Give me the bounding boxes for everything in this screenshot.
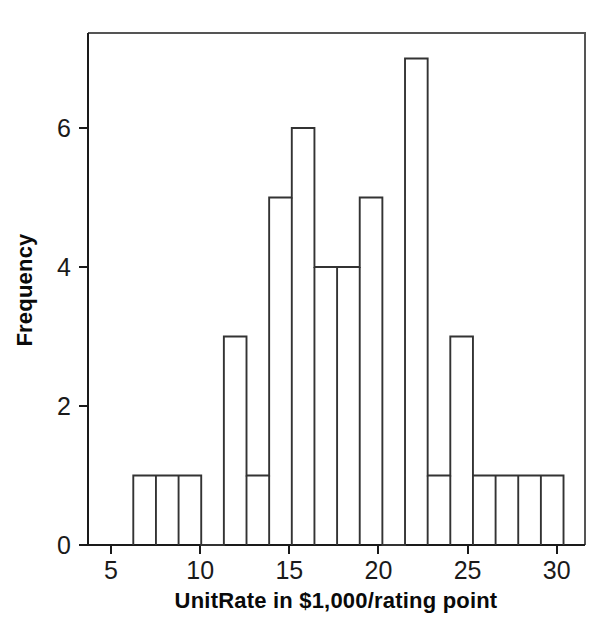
- histogram-bar: [179, 476, 202, 546]
- x-tick-label: 25: [454, 556, 482, 584]
- histogram-bar: [450, 337, 473, 546]
- y-axis: 0246 Frequency: [12, 33, 88, 559]
- histogram-bar: [156, 476, 179, 546]
- histogram-bar: [496, 476, 519, 546]
- histogram-bar: [473, 476, 496, 546]
- y-axis-tick-labels: 0246: [57, 114, 71, 559]
- x-axis-title: UnitRate in $1,000/rating point: [175, 588, 498, 613]
- histogram-plot: 0246 Frequency 51015202530 UnitRate in $…: [0, 0, 616, 640]
- x-tick-label: 20: [365, 556, 393, 584]
- histogram-bar: [133, 476, 156, 546]
- y-axis-title: Frequency: [12, 233, 37, 347]
- y-tick-label: 4: [57, 253, 71, 281]
- histogram-bar: [337, 267, 360, 545]
- histogram-bar: [541, 476, 564, 546]
- histogram-bar: [292, 128, 315, 545]
- histogram-bar: [405, 59, 428, 546]
- histogram-bar: [518, 476, 541, 546]
- x-tick-label: 10: [186, 556, 214, 584]
- x-axis-tick-labels: 51015202530: [104, 556, 571, 584]
- histogram-figure: 0246 Frequency 51015202530 UnitRate in $…: [0, 0, 616, 640]
- histogram-bars: [133, 59, 563, 546]
- histogram-bar: [314, 267, 337, 545]
- y-axis-ticks: [79, 128, 88, 545]
- y-tick-label: 0: [57, 531, 71, 559]
- histogram-bar: [428, 476, 451, 546]
- y-tick-label: 6: [57, 114, 71, 142]
- x-tick-label: 30: [543, 556, 571, 584]
- x-axis: 51015202530 UnitRate in $1,000/rating po…: [88, 545, 585, 613]
- x-tick-label: 5: [104, 556, 118, 584]
- histogram-bar: [269, 198, 292, 546]
- x-tick-label: 15: [275, 556, 303, 584]
- y-tick-label: 2: [57, 392, 71, 420]
- histogram-bar: [247, 476, 270, 546]
- histogram-bar: [224, 337, 247, 546]
- x-axis-ticks: [111, 545, 557, 554]
- histogram-bar: [360, 198, 383, 546]
